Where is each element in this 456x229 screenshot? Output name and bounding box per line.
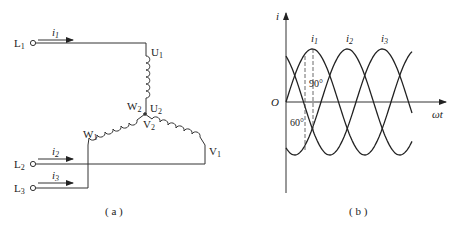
curve-label-i2: i2	[346, 32, 353, 46]
terminal-l3	[30, 185, 35, 190]
wire-l1	[36, 43, 146, 56]
label-l1: L1	[14, 37, 25, 51]
curve-label-i1: i1	[311, 32, 318, 46]
x-axis-label: ωt	[432, 108, 444, 120]
figure-a-circuit	[30, 40, 205, 191]
caption-b: ( b )	[349, 205, 368, 218]
annotation-90: 90°	[309, 78, 323, 89]
figure-b-labels: i O ωt i1 i2 i3 90° 60° ( b )	[271, 10, 444, 218]
label-i1: i1	[52, 26, 59, 40]
coil-w	[88, 114, 145, 188]
label-u1: U1	[151, 46, 163, 60]
figure-b-chart	[286, 13, 446, 193]
neutral-node	[144, 113, 147, 116]
origin-label: O	[271, 96, 279, 108]
label-v1: V1	[209, 145, 221, 159]
terminal-l1	[30, 40, 35, 45]
annotation-60: 60°	[290, 117, 304, 128]
label-v2: V2	[143, 118, 155, 132]
caption-a: ( a )	[105, 205, 123, 218]
label-u2: U2	[150, 102, 162, 116]
y-axis-label: i	[276, 10, 279, 22]
curve-label-i3: i3	[381, 32, 388, 46]
figure-root: L1 L2 L3 i1 i2 i3 U1 U2 W2 V2 W1 V1 ( a …	[0, 0, 456, 229]
label-i2: i2	[52, 145, 59, 159]
figure-a-labels: L1 L2 L3 i1 i2 i3 U1 U2 W2 V2 W1 V1 ( a …	[14, 26, 221, 218]
label-l2: L2	[14, 158, 25, 172]
coil-v	[145, 114, 205, 164]
label-w1: W1	[83, 128, 97, 142]
label-i3: i3	[52, 169, 59, 183]
label-l3: L3	[14, 182, 25, 196]
terminal-l2	[30, 161, 35, 166]
label-w2: W2	[127, 100, 141, 114]
